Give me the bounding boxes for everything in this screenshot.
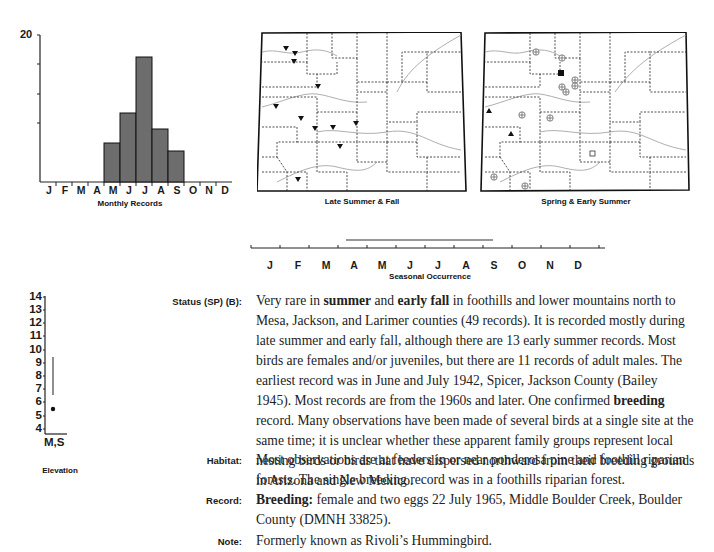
elevation-tick: 14 bbox=[18, 290, 42, 303]
seasonal-occurrence-chart: J F M A M J J A S O N D Seasonal Occurre… bbox=[0, 0, 714, 285]
elevation-tick: 5 bbox=[18, 409, 42, 422]
elevation-chart: 14 13 12 11 10 9 8 7 6 5 4 M,S Elevation bbox=[0, 285, 140, 485]
elevation-tick: 10 bbox=[18, 343, 42, 356]
seasonal-month-label: M bbox=[372, 259, 392, 271]
seasonal-month-label: A bbox=[456, 259, 476, 271]
seasonal-month-label: D bbox=[568, 259, 588, 271]
seasonal-axis bbox=[250, 236, 606, 252]
elevation-tick: 13 bbox=[18, 303, 42, 316]
elevation-point bbox=[51, 407, 55, 411]
record-body: female and two eggs 22 July 1965, Middle… bbox=[256, 492, 682, 527]
elevation-tick: 12 bbox=[18, 316, 42, 329]
status-label: Status (SP) (B): bbox=[140, 296, 242, 307]
status-keyword-breeding: breeding bbox=[614, 393, 665, 408]
elevation-tick: 7 bbox=[18, 382, 42, 395]
elevation-category: M,S bbox=[44, 436, 64, 448]
seasonal-month-label: M bbox=[316, 259, 336, 271]
status-keyword-summer: summer bbox=[324, 293, 372, 308]
seasonal-month-label: N bbox=[540, 259, 560, 271]
status-text-part: Very rare in bbox=[256, 293, 324, 308]
seasonal-month-label: J bbox=[428, 259, 448, 271]
seasonal-month-label: J bbox=[400, 259, 420, 271]
note-text: Formerly known as Rivoli’s Hummingbird. bbox=[256, 531, 696, 551]
status-text-part: in foothills and lower mountains north t… bbox=[256, 293, 685, 408]
seasonal-caption: Seasonal Occurrence bbox=[355, 272, 505, 281]
status-keyword-early-fall: early fall bbox=[398, 293, 450, 308]
elevation-plot bbox=[40, 293, 70, 438]
seasonal-month-label: O bbox=[512, 259, 532, 271]
seasonal-month-label: J bbox=[260, 259, 280, 271]
habitat-text: Most observations are at feeders in or n… bbox=[256, 450, 696, 490]
elevation-caption: Elevation bbox=[30, 466, 90, 475]
habitat-label: Habitat: bbox=[140, 455, 242, 466]
record-label: Record: bbox=[140, 495, 242, 506]
seasonal-month-label: S bbox=[484, 259, 504, 271]
status-text-part: and bbox=[371, 293, 397, 308]
seasonal-month-label: F bbox=[288, 259, 308, 271]
record-text: Breeding: female and two eggs 22 July 19… bbox=[256, 490, 696, 530]
elevation-tick: 4 bbox=[18, 422, 42, 435]
note-label: Note: bbox=[140, 536, 242, 547]
elevation-tick: 9 bbox=[18, 356, 42, 369]
elevation-tick: 6 bbox=[18, 395, 42, 408]
elevation-tick: 11 bbox=[18, 329, 42, 342]
elevation-tick: 8 bbox=[18, 369, 42, 382]
seasonal-month-label: A bbox=[344, 259, 364, 271]
record-breeding-prefix: Breeding: bbox=[256, 492, 313, 507]
